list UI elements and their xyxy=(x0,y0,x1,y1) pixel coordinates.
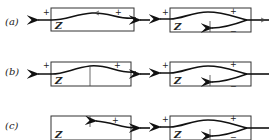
box-label: Z xyxy=(54,20,63,31)
box-label: Z xyxy=(173,21,182,32)
svg-text:−: − xyxy=(230,27,237,36)
row-b: (b) Z + + Z + + − xyxy=(5,60,269,91)
box-label: Z xyxy=(54,129,63,140)
row-c: (c) Z + Z + + − xyxy=(5,114,269,140)
box-label: Z xyxy=(173,75,182,86)
row-a: (a) Z + + Z + + − xyxy=(5,7,269,36)
box-label: Z xyxy=(54,75,63,86)
right-panel: Z + + − xyxy=(140,7,269,36)
svg-text:+: + xyxy=(112,116,119,125)
svg-text:+: + xyxy=(230,7,237,16)
left-panel: Z + xyxy=(51,116,136,140)
svg-text:+: + xyxy=(162,115,169,124)
svg-text:−: − xyxy=(230,133,237,140)
left-panel: Z + + xyxy=(38,61,136,86)
row-label: (c) xyxy=(5,120,19,131)
sign-plus: + xyxy=(115,8,122,17)
svg-text:+: + xyxy=(230,60,237,69)
svg-text:+: + xyxy=(114,61,121,70)
sign-plus: + xyxy=(43,8,50,17)
left-panel: Z + + xyxy=(38,8,136,31)
lower-path xyxy=(212,74,247,82)
right-panel: Z + + − xyxy=(140,114,269,140)
row-label: (b) xyxy=(5,66,19,77)
component-box xyxy=(51,116,131,140)
svg-text:+: + xyxy=(162,8,169,17)
svg-text:+: + xyxy=(230,114,237,123)
right-panel: Z + + − xyxy=(140,60,269,91)
svg-text:+: + xyxy=(162,61,169,70)
svg-text:+: + xyxy=(43,61,50,70)
svg-text:−: − xyxy=(230,82,237,91)
box-label: Z xyxy=(173,129,182,140)
row-label: (a) xyxy=(5,16,19,27)
diagram: (a) Z + + Z + + − (b) Z xyxy=(0,0,272,140)
wire-path xyxy=(38,66,136,74)
